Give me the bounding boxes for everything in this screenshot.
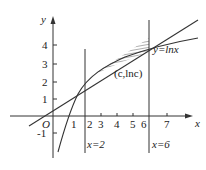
- y-tick-1: 1: [42, 93, 48, 105]
- y-tick-2: 2: [42, 76, 48, 88]
- y-tick-3: 3: [42, 58, 48, 70]
- x-tick-7: 7: [164, 118, 170, 130]
- x-tick-6: 6: [141, 118, 147, 130]
- x-tick-5: 5: [130, 118, 136, 130]
- y-axis-arrow-icon: [51, 16, 56, 24]
- y-axis-label: y: [40, 13, 46, 25]
- x-tick-2: 2: [87, 118, 93, 130]
- y-ticks: [53, 45, 57, 133]
- y-tick-neg1: -1: [37, 127, 46, 139]
- vline-x6-label: x=6: [151, 138, 170, 150]
- x-axis-label: x: [194, 117, 200, 129]
- x-axis-arrow-icon: [185, 114, 193, 119]
- diagram: y x O 4 3 2 1 -1 1 2 3 4 5 6 7 y=lnx (c,…: [0, 0, 206, 170]
- x-tick-1: 1: [71, 118, 77, 130]
- vline-x2-label: x=2: [86, 138, 105, 150]
- x-tick-4: 4: [114, 118, 120, 130]
- point-label: (c,lnc): [114, 67, 143, 80]
- x-tick-3: 3: [98, 118, 104, 130]
- curve-label: y=lnx: [152, 43, 179, 55]
- y-tick-4: 4: [42, 39, 48, 51]
